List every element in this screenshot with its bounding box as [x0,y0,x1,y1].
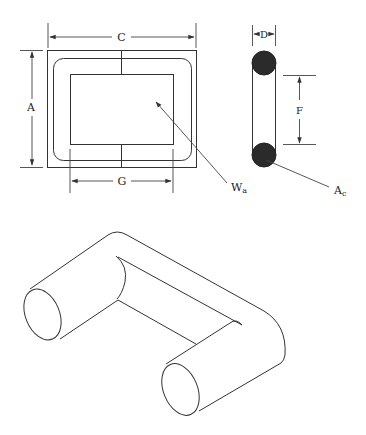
label-g: G [118,175,127,188]
left-leg-end-face [17,284,68,346]
dimension-d: D [253,25,276,46]
label-f: F [296,105,303,116]
label-d: D [260,29,268,40]
right-leg-end-face [155,358,207,421]
winding-outline [54,59,192,161]
core-section-top [252,51,276,75]
label-ac: Ac [333,184,347,198]
core-section-bottom [252,143,276,167]
dimension-f: F [283,76,316,145]
label-c: C [117,31,125,44]
side-view: D F Ac [252,25,347,198]
label-a: A [26,101,36,114]
window-area [71,75,174,145]
isometric-c-core [17,232,285,421]
dimension-c: C [48,23,196,48]
diagram-canvas: C A G Wa [0,0,366,435]
label-wa: Wa [231,181,247,195]
front-view: C A G Wa [20,23,247,195]
core-area-callout: Ac [266,160,347,198]
dimension-a: A [20,51,43,168]
